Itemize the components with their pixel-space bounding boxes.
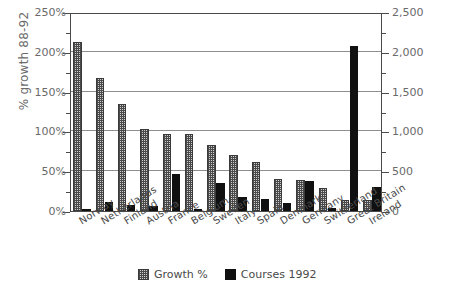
axis-tick xyxy=(382,172,389,173)
bar-growth xyxy=(96,78,105,211)
bar-group xyxy=(338,14,360,211)
bar-group xyxy=(182,14,204,211)
y-axis-left-tick-label: 200% xyxy=(35,47,66,58)
y-axis-right-tick-label: 2,500 xyxy=(392,7,424,18)
bar-group xyxy=(272,14,294,211)
bar-growth xyxy=(252,162,261,211)
legend-label-growth: Growth % xyxy=(154,268,208,281)
y-axis-left-tick-label: 50% xyxy=(42,166,66,177)
y-axis-right-tick-label: 1,000 xyxy=(392,126,424,137)
bar-group xyxy=(116,14,138,211)
bar-growth xyxy=(73,42,82,211)
axis-tick xyxy=(382,13,389,14)
y-axis-right-tick-label: 2,000 xyxy=(392,47,424,58)
bar-group xyxy=(316,14,338,211)
bar-group xyxy=(361,14,383,211)
bar-group xyxy=(205,14,227,211)
legend-item-growth: Growth % xyxy=(138,268,208,281)
y-axis-left-title: % growth 88-92 xyxy=(17,0,31,141)
bar-group xyxy=(249,14,271,211)
y-axis-right-tick-label: 500 xyxy=(392,166,413,177)
axis-tick xyxy=(382,132,389,133)
axis-tick xyxy=(382,93,389,94)
legend-swatch-growth xyxy=(138,269,149,280)
bar-group xyxy=(294,14,316,211)
bar-courses xyxy=(350,46,359,211)
chart-legend: Growth % Courses 1992 xyxy=(138,268,316,281)
plot-area xyxy=(70,13,382,212)
y-axis-right-tick-label: 1,500 xyxy=(392,87,424,98)
legend-label-courses: Courses 1992 xyxy=(241,268,317,281)
bar-group xyxy=(160,14,182,211)
chart-container: % growth 88-92 Number of courses 0%50%10… xyxy=(0,0,449,291)
y-axis-left-tick-label: 0% xyxy=(49,206,66,217)
bar-group xyxy=(71,14,93,211)
legend-swatch-courses xyxy=(225,269,236,280)
bar-growth xyxy=(118,104,127,211)
y-axis-left-tick-label: 250% xyxy=(35,7,66,18)
bar-group xyxy=(138,14,160,211)
y-axis-left-tick-label: 150% xyxy=(35,87,66,98)
axis-tick xyxy=(382,53,389,54)
legend-item-courses: Courses 1992 xyxy=(225,268,317,281)
bar-group xyxy=(227,14,249,211)
y-axis-left-tick-label: 100% xyxy=(35,126,66,137)
bar-group xyxy=(93,14,115,211)
